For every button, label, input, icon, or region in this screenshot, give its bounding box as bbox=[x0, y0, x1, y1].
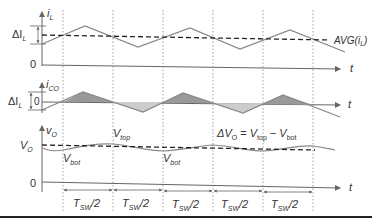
vo-t-label: t bbox=[349, 181, 353, 193]
inductor-current-panel bbox=[30, 12, 345, 69]
ico-axis-label: iCO bbox=[46, 78, 60, 92]
vtop-label: Vtop bbox=[113, 127, 130, 142]
interval-label-1: TSW/2 bbox=[73, 197, 100, 211]
vbot-label-1: Vbot bbox=[63, 152, 81, 166]
delta-vo-equation: ΔVO = Vtop − Vbot bbox=[216, 127, 296, 142]
vbot-label-2: Vbot bbox=[163, 152, 181, 166]
capacitor-current-panel bbox=[28, 83, 340, 117]
interval-label-2: TSW/2 bbox=[122, 197, 149, 211]
avg-il-label: AVG(iL) bbox=[333, 35, 367, 47]
interval-label-5: TSW/2 bbox=[271, 198, 298, 212]
vo-axis-label: vO bbox=[46, 124, 58, 138]
vo-level-label: VO bbox=[20, 139, 33, 153]
ico-zero-label: 0 bbox=[34, 96, 40, 107]
il-zero-label: 0 bbox=[30, 58, 36, 70]
ripple-waveform-diagram: iL ΔIL 0 t AVG(iL) iCO ΔIL 0 t vO VO 0 t… bbox=[0, 0, 372, 219]
interval-dimension-arrows bbox=[64, 190, 312, 192]
ico-t-label: t bbox=[348, 98, 352, 110]
il-average-line bbox=[42, 35, 330, 40]
il-delta-label: ΔIL bbox=[12, 28, 26, 42]
interval-label-4: TSW/2 bbox=[221, 198, 248, 212]
il-axis-label: iL bbox=[47, 7, 53, 21]
il-t-label: t bbox=[350, 62, 354, 74]
interval-label-3: TSW/2 bbox=[172, 198, 199, 212]
period-dividers bbox=[63, 10, 313, 212]
ico-delta-label: ΔIL bbox=[8, 95, 22, 109]
il-t-axis bbox=[42, 65, 340, 69]
vo-zero-label: 0 bbox=[30, 177, 36, 189]
